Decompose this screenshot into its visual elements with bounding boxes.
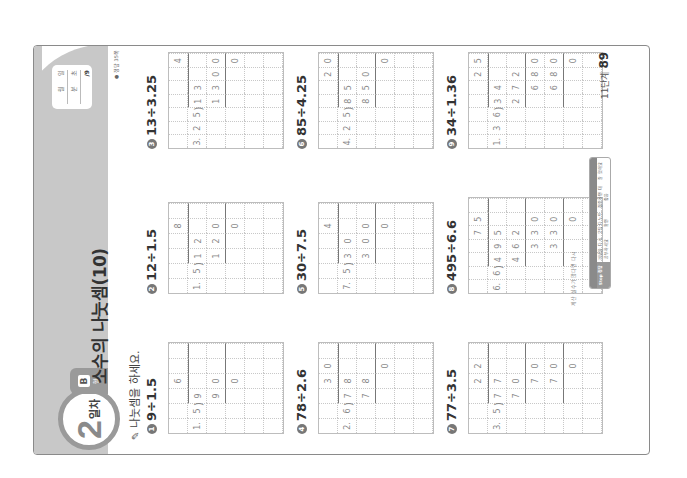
- grid-cell[interactable]: [357, 358, 376, 373]
- grid-cell[interactable]: [319, 203, 338, 218]
- grid-cell[interactable]: [188, 218, 207, 233]
- grid-cell[interactable]: [319, 403, 338, 418]
- grid-cell[interactable]: 9: [488, 239, 507, 253]
- grid-cell[interactable]: [319, 248, 338, 263]
- grid-cell[interactable]: [207, 343, 226, 358]
- grid-cell[interactable]: [376, 263, 395, 278]
- grid-cell[interactable]: [583, 135, 602, 149]
- grid-cell[interactable]: 6: [526, 81, 545, 95]
- grid-cell[interactable]: [357, 278, 376, 293]
- grid-cell[interactable]: [545, 253, 564, 267]
- grid-cell[interactable]: 4: [319, 218, 338, 233]
- grid-cell[interactable]: [507, 266, 526, 280]
- grid-cell[interactable]: 7: [488, 388, 507, 403]
- grid-cell[interactable]: [469, 81, 488, 95]
- grid-cell[interactable]: 1: [207, 94, 226, 108]
- grid-cell[interactable]: [338, 358, 357, 373]
- grid-cell[interactable]: [245, 418, 264, 433]
- grid-cell[interactable]: 0: [226, 218, 245, 233]
- grid-cell[interactable]: [507, 280, 526, 294]
- grid-cell[interactable]: [338, 203, 357, 218]
- grid-cell[interactable]: [545, 403, 564, 418]
- grid-cell[interactable]: [376, 121, 395, 135]
- grid-cell[interactable]: [245, 388, 264, 403]
- grid-cell[interactable]: [395, 203, 414, 218]
- grid-cell[interactable]: [245, 343, 264, 358]
- grid-cell[interactable]: [414, 343, 433, 358]
- grid-cell[interactable]: 6: [545, 81, 564, 95]
- grid-cell[interactable]: 1.: [188, 278, 207, 293]
- grid-cell[interactable]: [395, 248, 414, 263]
- grid-cell[interactable]: [264, 388, 283, 403]
- grid-cell[interactable]: [507, 121, 526, 135]
- grid-cell[interactable]: [507, 54, 526, 68]
- grid-cell[interactable]: [564, 418, 583, 433]
- grid-cell[interactable]: [414, 418, 433, 433]
- grid-cell[interactable]: [414, 278, 433, 293]
- grid-cell[interactable]: 6: [507, 239, 526, 253]
- grid-cell[interactable]: [488, 54, 507, 68]
- grid-cell[interactable]: [488, 358, 507, 373]
- grid-cell[interactable]: [264, 263, 283, 278]
- grid-cell[interactable]: [414, 373, 433, 388]
- grid-cell[interactable]: [414, 94, 433, 108]
- grid-cell[interactable]: 7: [488, 373, 507, 388]
- grid-cell[interactable]: [526, 199, 545, 213]
- grid-cell[interactable]: [376, 388, 395, 403]
- grid-cell[interactable]: [507, 199, 526, 213]
- grid-cell[interactable]: 7: [545, 373, 564, 388]
- grid-cell[interactable]: [338, 54, 357, 68]
- grid-cell[interactable]: [245, 278, 264, 293]
- grid-cell[interactable]: [469, 403, 488, 418]
- grid-cell[interactable]: [357, 121, 376, 135]
- grid-cell[interactable]: [319, 418, 338, 433]
- grid-cell[interactable]: [207, 135, 226, 149]
- grid-cell[interactable]: 0: [545, 358, 564, 373]
- grid-cell[interactable]: [583, 403, 602, 418]
- grid-cell[interactable]: [169, 233, 188, 248]
- grid-cell[interactable]: 8: [338, 94, 357, 108]
- grid-cell[interactable]: [188, 54, 207, 68]
- grid-cell[interactable]: 2: [469, 67, 488, 81]
- grid-cell[interactable]: 2.: [338, 418, 357, 433]
- grid-cell[interactable]: [207, 108, 226, 122]
- grid-cell[interactable]: [469, 418, 488, 433]
- grid-cell[interactable]: [545, 266, 564, 280]
- grid-cell[interactable]: [507, 418, 526, 433]
- grid-cell[interactable]: [264, 203, 283, 218]
- grid-cell[interactable]: [264, 403, 283, 418]
- grid-cell[interactable]: [169, 403, 188, 418]
- grid-cell[interactable]: [319, 343, 338, 358]
- grid-cell[interactable]: [545, 418, 564, 433]
- grid-cell[interactable]: [526, 121, 545, 135]
- grid-cell[interactable]: [469, 343, 488, 358]
- grid-cell[interactable]: [526, 418, 545, 433]
- grid-cell[interactable]: 0: [207, 67, 226, 81]
- grid-cell[interactable]: 1.: [488, 135, 507, 149]
- grid-cell[interactable]: [188, 203, 207, 218]
- grid-cell[interactable]: [207, 358, 226, 373]
- grid-cell[interactable]: 0: [357, 67, 376, 81]
- grid-cell[interactable]: [264, 373, 283, 388]
- grid-cell[interactable]: 0: [207, 218, 226, 233]
- grid-cell[interactable]: [245, 358, 264, 373]
- grid-cell[interactable]: [395, 278, 414, 293]
- grid-cell[interactable]: [376, 343, 395, 358]
- grid-cell[interactable]: 3.: [488, 418, 507, 433]
- grid-cell[interactable]: 8: [357, 94, 376, 108]
- grid-cell[interactable]: [583, 108, 602, 122]
- grid-cell[interactable]: [319, 121, 338, 135]
- grid-cell[interactable]: [395, 108, 414, 122]
- grid-cell[interactable]: [526, 343, 545, 358]
- grid-cell[interactable]: 3: [207, 81, 226, 95]
- grid-cell[interactable]: [207, 203, 226, 218]
- grid-cell[interactable]: [245, 67, 264, 81]
- grid-cell[interactable]: 2: [507, 226, 526, 240]
- grid-cell[interactable]: [395, 81, 414, 95]
- grid-cell[interactable]: [545, 343, 564, 358]
- grid-cell[interactable]: [564, 226, 583, 240]
- grid-cell[interactable]: [564, 135, 583, 149]
- grid-cell[interactable]: [526, 280, 545, 294]
- grid-cell[interactable]: 6.: [488, 280, 507, 294]
- grid-cell[interactable]: [264, 358, 283, 373]
